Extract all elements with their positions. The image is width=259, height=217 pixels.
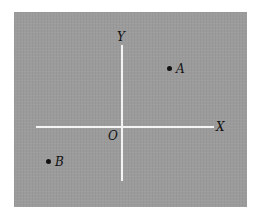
y-axis-line bbox=[121, 45, 123, 181]
point-b-label: B bbox=[55, 156, 64, 168]
coordinate-plane-panel bbox=[14, 12, 247, 207]
x-axis-label: X bbox=[216, 121, 225, 133]
point-a-label: A bbox=[176, 63, 185, 75]
point-a-dot bbox=[167, 66, 172, 71]
x-axis-line bbox=[36, 126, 214, 128]
point-b-dot bbox=[46, 159, 51, 164]
origin-label: O bbox=[108, 130, 118, 142]
y-axis-label: Y bbox=[117, 31, 125, 43]
